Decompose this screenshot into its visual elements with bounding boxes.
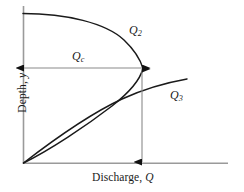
label-q2: Q2 bbox=[129, 24, 142, 36]
y-axis-label: Depth, y bbox=[17, 58, 29, 128]
label-q3: Q3 bbox=[170, 89, 183, 101]
label-qc: Qc bbox=[72, 50, 84, 62]
discharge-depth-diagram: Q2 Q3 Qc Discharge, Q Depth, y bbox=[0, 0, 244, 192]
diagram-canvas bbox=[0, 0, 244, 192]
x-axis-label: Discharge, Q bbox=[92, 172, 154, 184]
